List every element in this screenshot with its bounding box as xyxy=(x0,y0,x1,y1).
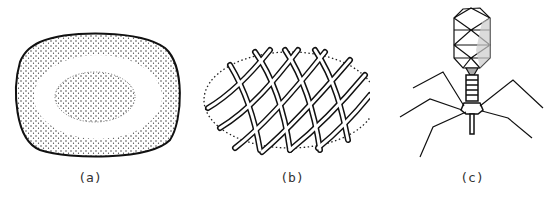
helical-nucleocapsid-illustration xyxy=(190,0,370,170)
panel-b-label: (b) xyxy=(272,170,312,185)
bacteriophage-illustration xyxy=(370,0,558,170)
panel-b: (b) xyxy=(190,0,370,197)
panel-a: (a) xyxy=(0,0,190,197)
spherical-particle-illustration xyxy=(0,0,190,170)
panel-c-label: (c) xyxy=(452,170,492,185)
panel-a-label: (a) xyxy=(70,170,110,185)
panel-c: (c) xyxy=(370,0,558,197)
